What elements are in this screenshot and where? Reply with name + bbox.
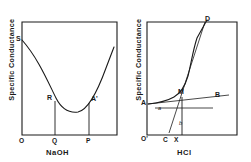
point-label-s: S	[16, 35, 21, 42]
point-label-r: R	[47, 94, 52, 101]
y-axis-label-right: Specific Conductance	[135, 12, 142, 108]
figure-two-titration-curves: Specific Conductance NaOH S R A' O Q P S…	[0, 0, 251, 162]
point-label-d: D	[205, 15, 210, 22]
point-label-b: B	[215, 91, 220, 98]
tick-label-c: C	[163, 137, 168, 144]
tick-label-origin-o: O	[19, 138, 24, 145]
plot-frame-left	[22, 22, 117, 135]
angle-label-alpha: a	[158, 106, 161, 112]
tangent-line-cd	[169, 22, 205, 133]
tick-label-q: Q	[52, 138, 57, 145]
x-axis-label-naoh: NaOH	[46, 149, 69, 157]
tick-label-x: X	[174, 137, 178, 144]
point-label-a-prime: A'	[91, 95, 98, 102]
chart-panel-naoh: Specific Conductance NaOH S R A' O Q P	[0, 0, 125, 162]
point-label-a: A	[141, 99, 146, 106]
chart-panel-hcl: Specific Conductance HCl A B D M a b O' …	[125, 0, 250, 162]
plot-frame-right	[147, 22, 237, 135]
curve-conductance-naoh	[22, 40, 114, 112]
tick-label-origin-o-prime: O'	[141, 136, 148, 143]
y-axis-label-left: Specific Conductance	[8, 12, 15, 108]
point-label-m: M	[178, 88, 184, 95]
angle-label-beta: b	[179, 121, 182, 127]
x-axis-label-hcl: HCl	[177, 149, 192, 157]
tick-label-p: P	[86, 138, 90, 145]
